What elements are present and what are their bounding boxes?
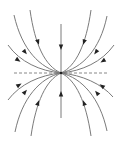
trajectory-curve bbox=[61, 73, 113, 97]
equilibrium-point bbox=[60, 72, 63, 75]
arrow-icon bbox=[59, 91, 63, 97]
arrow-icon bbox=[22, 49, 29, 56]
trajectory-curve bbox=[61, 16, 107, 73]
trajectory-curve bbox=[61, 45, 114, 73]
arrow-icon bbox=[59, 45, 63, 51]
arrow-icon bbox=[35, 99, 41, 106]
trajectory-curve bbox=[8, 73, 61, 100]
phase-portrait-diagram bbox=[0, 0, 122, 142]
arrow-icon bbox=[81, 39, 87, 46]
trajectory-curve bbox=[30, 10, 61, 73]
arrow-icon bbox=[93, 89, 100, 96]
trajectory-curve bbox=[14, 15, 61, 73]
arrow-icon bbox=[22, 88, 29, 95]
arrow-icon bbox=[81, 99, 87, 106]
trajectory-curve bbox=[61, 10, 91, 73]
phase-portrait-svg bbox=[0, 0, 122, 142]
